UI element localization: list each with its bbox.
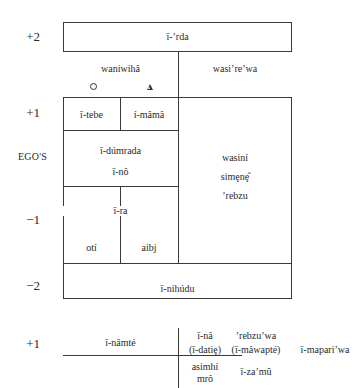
term-asimhi: asimhí — [180, 362, 230, 372]
female-symbol-icon — [90, 83, 97, 90]
lower-generation-label-plus1: +1 — [0, 337, 40, 350]
term-waniwiha: waniwihâ — [63, 64, 178, 74]
generation-label-minus2: −2 — [0, 279, 40, 292]
male-symbol-icon — [147, 84, 153, 90]
lower-horizontal-line — [63, 355, 242, 356]
term-idatie: (ī-datiȩ) — [180, 345, 230, 355]
term-imama: í-mâmâ — [120, 110, 178, 120]
term-inihudu: ī-nihúdu — [63, 284, 292, 294]
term-ina: ī-nâ — [180, 331, 230, 341]
generation-label-plus2: +2 — [0, 30, 40, 43]
term-simene: simȩnȩ̂ — [178, 172, 292, 182]
term-oti: otí — [63, 243, 120, 253]
term-itebe: ī-tebe — [63, 110, 120, 120]
term-wasirewa: wasi’re’wa — [178, 64, 292, 74]
term-ira: ī-ra — [63, 206, 178, 216]
term-idumrada: ī-dúmrada — [63, 146, 178, 156]
generation-label-minus1: −1 — [0, 213, 40, 226]
term-rebzuwa: ’rebzu’wa — [225, 331, 287, 341]
term-imawapte: (ī-mâwapté) — [225, 345, 287, 355]
row-divider-3 — [63, 263, 292, 264]
lower-vertical-line — [178, 328, 179, 388]
term-izamu: ī-za’mû — [225, 367, 287, 377]
term-rebzu: ’rebzu — [178, 191, 292, 201]
row-divider-1 — [63, 130, 178, 131]
term-mro: mrô — [180, 374, 230, 384]
term-imapariwa: ī-mapari’wa — [290, 345, 358, 355]
term-irda: ī-’rda — [63, 32, 292, 42]
ego-label: EGO'S — [18, 151, 47, 162]
generation-label-plus1: +1 — [0, 106, 40, 119]
center-divider-upper — [178, 52, 179, 97]
term-wasini: wasiní — [178, 153, 292, 163]
term-inamte: ī-nâmté — [63, 338, 178, 348]
term-ino: ī-nô — [63, 167, 178, 177]
term-aibj: aibj — [120, 243, 178, 253]
